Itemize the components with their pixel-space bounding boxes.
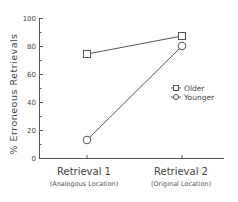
square-marker bbox=[179, 33, 186, 40]
x-category-label: Retrieval 2 bbox=[154, 166, 208, 177]
y-ticks bbox=[40, 19, 44, 159]
y-tick-label: 40 bbox=[27, 99, 36, 107]
legend-item-younger: Younger bbox=[171, 93, 215, 102]
square-marker bbox=[84, 51, 91, 58]
y-tick-label: 100 bbox=[23, 15, 36, 23]
x-category-sublabel: (Analogous Location) bbox=[50, 180, 119, 188]
series-younger bbox=[83, 42, 186, 144]
y-tick-label: 80 bbox=[27, 43, 36, 51]
circle-marker bbox=[83, 136, 91, 144]
circle-marker bbox=[178, 42, 186, 50]
legend: Older Younger bbox=[171, 84, 215, 102]
y-tick-label: 20 bbox=[27, 127, 36, 135]
series-older bbox=[84, 33, 186, 58]
square-icon bbox=[174, 86, 179, 91]
legend-item-older: Older bbox=[171, 84, 205, 93]
line-chart: % Erroneous Retrievals 0 20 40 60 80 100… bbox=[0, 0, 238, 202]
y-axis-title: % Erroneous Retrievals bbox=[8, 33, 19, 154]
x-category-sublabel: (Original Location) bbox=[151, 180, 211, 188]
x-category-label: Retrieval 1 bbox=[57, 166, 111, 177]
legend-label: Older bbox=[184, 84, 205, 93]
circle-icon bbox=[173, 94, 178, 99]
y-tick-label: 60 bbox=[27, 71, 36, 79]
legend-label: Younger bbox=[183, 93, 215, 102]
y-tick-label: 0 bbox=[32, 155, 36, 163]
